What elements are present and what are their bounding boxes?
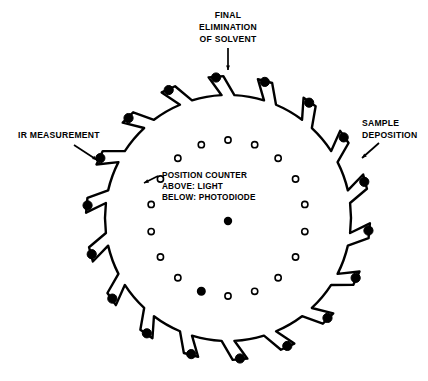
label-line: ABOVE: LIGHT bbox=[162, 182, 223, 191]
label-line: FINAL bbox=[215, 10, 242, 20]
center-pivot-marker bbox=[224, 217, 232, 225]
position-counter-hole bbox=[302, 201, 308, 207]
diagram-canvas: FINAL ELIMINATION OF SOLVENT IR MEASUREM… bbox=[0, 0, 428, 381]
tab-cap bbox=[323, 313, 332, 322]
carousel-diagram: FINAL ELIMINATION OF SOLVENT IR MEASUREM… bbox=[0, 0, 428, 381]
tab-cap bbox=[164, 85, 173, 94]
position-counter-hole bbox=[275, 275, 281, 281]
label-line: POSITION COUNTER bbox=[162, 171, 247, 180]
annotation-arrows bbox=[74, 48, 379, 183]
label-line: SAMPLE bbox=[362, 118, 399, 128]
position-counter-hole bbox=[175, 155, 181, 161]
tab-cap bbox=[364, 226, 373, 235]
tab-cap bbox=[351, 273, 360, 282]
tab-cap bbox=[283, 341, 292, 350]
position-counter-hole bbox=[225, 293, 231, 299]
position-counter-hole bbox=[157, 254, 163, 260]
tab-cap bbox=[260, 77, 269, 86]
position-counter-hole bbox=[252, 142, 258, 148]
tab-cap bbox=[83, 201, 92, 210]
position-counter-hole bbox=[302, 228, 308, 234]
tab-cap bbox=[142, 329, 151, 338]
position-counter-hole bbox=[175, 275, 181, 281]
tab-cap bbox=[187, 350, 196, 359]
position-counter-hole bbox=[275, 155, 281, 161]
position-counter-hole bbox=[198, 142, 204, 148]
position-counter-marker bbox=[198, 288, 205, 295]
label-line: OF SOLVENT bbox=[200, 34, 257, 44]
center-dot bbox=[224, 217, 232, 225]
tab-cap bbox=[211, 73, 220, 82]
arrow-final-elimination-head bbox=[226, 65, 230, 70]
position-counter-hole bbox=[292, 254, 298, 260]
tab-cap bbox=[108, 294, 117, 303]
tab-cap bbox=[87, 250, 96, 259]
tab-cap bbox=[305, 98, 314, 107]
position-counter-hole bbox=[292, 176, 298, 182]
position-counter-hole bbox=[252, 288, 258, 294]
tab-cap bbox=[339, 133, 348, 142]
label-line: ELIMINATION bbox=[199, 22, 257, 32]
position-counter-hole bbox=[225, 137, 231, 143]
tab-cap bbox=[124, 113, 133, 122]
tab-cap bbox=[360, 177, 369, 186]
tab-cap bbox=[235, 354, 244, 363]
label-line: IR MEASUREMENT bbox=[18, 130, 100, 140]
label-line: DEPOSITION bbox=[362, 130, 418, 140]
label-ir-measurement: IR MEASUREMENT bbox=[18, 130, 100, 140]
label-final-elimination-of-solvent: FINAL ELIMINATION OF SOLVENT bbox=[199, 10, 257, 44]
position-counter-hole bbox=[148, 201, 154, 207]
label-line: BELOW: PHOTODIODE bbox=[162, 193, 256, 202]
label-sample-deposition: SAMPLE DEPOSITION bbox=[362, 118, 418, 140]
tab-cap bbox=[96, 154, 105, 163]
position-counter-hole bbox=[148, 228, 154, 234]
label-position-counter: POSITION COUNTER ABOVE: LIGHT BELOW: PHO… bbox=[162, 171, 256, 202]
